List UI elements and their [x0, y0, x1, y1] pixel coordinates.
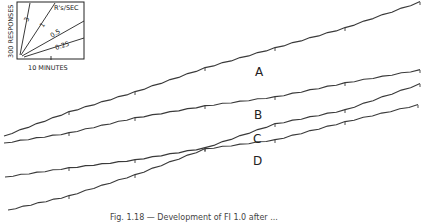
rate-label-3: 3 — [22, 16, 31, 23]
figure-caption: Fig. 1.18 — Development of FI 1.0 after … — [110, 213, 278, 222]
curve-d — [8, 105, 418, 210]
inset-ylabel: 300 RESPONSES — [7, 5, 15, 58]
cumulative-curves — [4, 2, 420, 210]
rate-label-0.5: 0.5 — [49, 27, 62, 39]
rate-line-0.25 — [24, 38, 84, 57]
inset-xlabel: 10 MINUTES — [28, 64, 68, 72]
rate-label-0.25: 0.25 — [54, 40, 70, 52]
rate-scale-inset: 300 RESPONSES 10 MINUTES R's/SEC 3 1 0.5… — [7, 2, 84, 72]
curve-label-a: A — [255, 65, 264, 79]
curve-labels: ABCD — [253, 65, 264, 168]
cumulative-record-figure: 300 RESPONSES 10 MINUTES R's/SEC 3 1 0.5… — [0, 0, 428, 224]
rate-line-3 — [20, 3, 30, 55]
inset-title: R's/SEC — [54, 4, 79, 12]
curve-label-c: C — [253, 132, 261, 146]
curve-c — [5, 84, 420, 177]
curve-label-b: B — [254, 108, 262, 122]
curve-label-d: D — [253, 154, 262, 168]
